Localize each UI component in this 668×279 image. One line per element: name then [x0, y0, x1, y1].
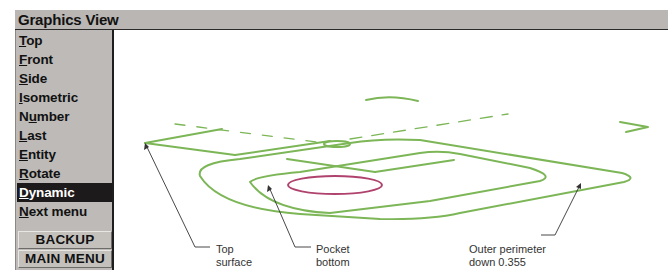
- callout-top-surface: Top surface: [216, 243, 252, 269]
- menu-item-number[interactable]: Number: [17, 107, 112, 126]
- label: mber: [37, 109, 70, 124]
- callout-line: Outer perimeter: [469, 243, 546, 256]
- mnemonic: D: [19, 185, 29, 200]
- view-menu-panel: Top Front Side Isometric Number Last Ent…: [15, 30, 114, 270]
- wireframe-arc: [366, 97, 418, 101]
- graphics-view-title-bar: Graphics View: [15, 10, 668, 30]
- main-menu-button[interactable]: MAIN MENU: [18, 250, 112, 268]
- menu-item-dynamic[interactable]: Dynamic: [17, 183, 112, 202]
- menu-item-top[interactable]: Top: [17, 31, 112, 50]
- callout-pocket-bottom: Pocket bottom: [316, 243, 350, 269]
- menu-item-rotate[interactable]: Rotate: [17, 164, 112, 183]
- label: ront: [27, 52, 53, 67]
- leader-top-surface: [146, 145, 210, 247]
- wireframe-chevron: [620, 122, 648, 132]
- label: ast: [27, 128, 46, 143]
- backup-button[interactable]: BACKUP: [18, 231, 112, 249]
- callout-line: down 0.355: [469, 256, 546, 269]
- label: ext menu: [29, 204, 87, 219]
- menu-item-isometric[interactable]: Isometric: [17, 88, 112, 107]
- menu-item-last[interactable]: Last: [17, 126, 112, 145]
- label: ynamic: [29, 185, 75, 200]
- label: N: [19, 109, 29, 124]
- mnemonic: u: [29, 109, 37, 124]
- mnemonic: L: [19, 128, 27, 143]
- mnemonic: N: [19, 204, 29, 219]
- label: ide: [28, 71, 47, 86]
- mnemonic: F: [19, 52, 27, 67]
- label: sometric: [23, 90, 78, 105]
- leader-outer-perimeter: [541, 185, 580, 235]
- part-geometry-wireframe: [116, 31, 668, 279]
- mnemonic: E: [19, 147, 28, 162]
- label: otate: [29, 166, 61, 181]
- label: ntity: [28, 147, 56, 162]
- menu-item-front[interactable]: Front: [17, 50, 112, 69]
- callout-line: surface: [216, 256, 252, 269]
- menu-item-next-menu[interactable]: Next menu: [17, 202, 112, 221]
- graphics-viewport[interactable]: Top surface Pocket bottom Outer perimete…: [116, 31, 668, 279]
- menu-item-side[interactable]: Side: [17, 69, 112, 88]
- menu-item-entity[interactable]: Entity: [17, 145, 112, 164]
- window-title: Graphics View: [18, 11, 119, 28]
- label: op: [26, 33, 42, 48]
- leader-pocket-bottom: [269, 187, 311, 247]
- callout-line: Top: [216, 243, 252, 256]
- mnemonic: R: [19, 166, 29, 181]
- callout-outer-perimeter: Outer perimeter down 0.355: [469, 243, 546, 269]
- mnemonic: S: [19, 71, 28, 86]
- callout-line: Pocket: [316, 243, 350, 256]
- pocket-bottom-ellipse: [288, 176, 382, 194]
- callout-line: bottom: [316, 256, 350, 269]
